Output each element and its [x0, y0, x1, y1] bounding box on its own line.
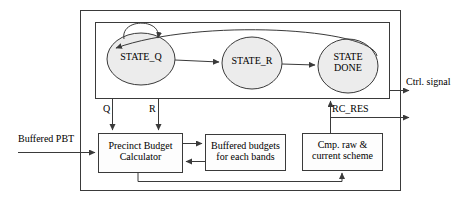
cmp-raw-current-scheme-label: Cmp. raw & current scheme [301, 140, 384, 162]
signal-r-label: R [149, 104, 156, 115]
signal-ctrl-label: Ctrl. signal [406, 77, 450, 88]
diagram-canvas: STATE_Q STATE_R STATE DONE Precinct Budg… [0, 0, 468, 208]
state-done-label-line2: DONE [318, 63, 378, 74]
signal-q-label: Q [103, 104, 110, 115]
precinct-budget-calculator-label: Precinct Budget Calculator [98, 141, 183, 163]
precinct-label-line2: Calculator [98, 152, 183, 163]
signal-buffered-pbt-label: Buffered PBT [18, 134, 74, 145]
signal-rc-res-label: RC_RES [332, 104, 369, 115]
state-r-label: STATE_R [220, 56, 284, 67]
buffers-label-line2: for each bands [204, 152, 287, 163]
cmp-label-line2: current scheme [301, 151, 384, 162]
state-q-label: STATE_Q [106, 52, 176, 63]
state-done-label: STATE DONE [318, 52, 378, 74]
diagram-svg [0, 0, 468, 208]
buffered-budgets-label: Buffered budgets for each bands [204, 141, 287, 163]
